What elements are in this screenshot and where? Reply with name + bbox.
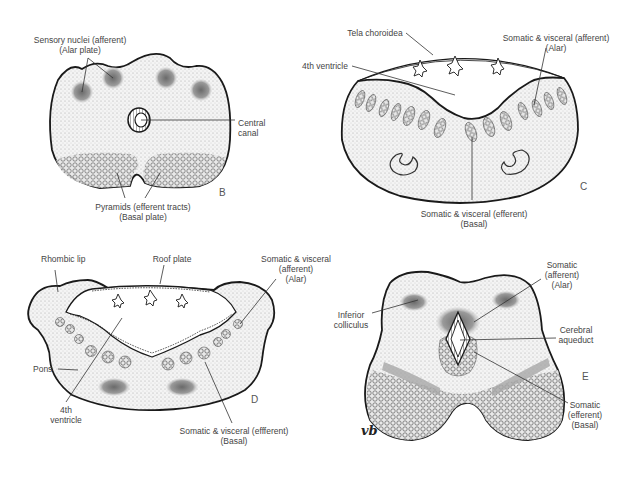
label-4th-ventricle-c: 4th ventricle xyxy=(299,61,351,71)
label-rhombic-lip: Rhombic lip xyxy=(41,254,85,264)
label-somatic-visceral-afferent-d: Somatic & visceral (afferent) (Alar) xyxy=(256,254,336,284)
panel-letter-d: D xyxy=(251,394,258,405)
panel-letter-e: E xyxy=(582,371,589,382)
panel-c-medulla-section xyxy=(342,33,578,203)
neural-tube-cross-sections-figure xyxy=(0,0,636,479)
label-roof-plate: Roof plate xyxy=(150,254,194,264)
sensory-nucleus xyxy=(190,79,212,101)
panel-e-midbrain-section xyxy=(365,272,568,440)
label-somatic-visceral-efferent-d: Somatic & visceral (effferent) (Basal) xyxy=(174,426,294,446)
label-inferior-colliculus: Inferior colliculus xyxy=(328,310,374,330)
artist-signature: vb xyxy=(361,423,378,438)
panel-c-outline xyxy=(342,78,578,204)
label-pyramids: Pyramids (efferent tracts) (Basal plate) xyxy=(88,202,198,222)
inferior-colliculus-right xyxy=(492,291,520,309)
label-pons: Pons xyxy=(33,364,52,374)
panel-letter-b: B xyxy=(219,187,226,198)
label-4th-ventricle-d: 4th ventricle xyxy=(46,405,86,425)
pontine-nucleus-left xyxy=(98,378,130,396)
label-somatic-visceral-efferent-c: Somatic & visceral (efferent) (Basal) xyxy=(416,209,532,229)
label-somatic-efferent-e: Somatic (efferent) (Basal) xyxy=(562,400,608,430)
panel-d-pons-section xyxy=(28,265,276,423)
label-somatic-visceral-afferent-c: Somatic & visceral (afferent) (Alar) xyxy=(498,33,614,53)
inferior-colliculus-left xyxy=(400,293,428,311)
pontine-nucleus-right xyxy=(166,378,198,396)
label-sensory-nuclei: Sensory nuclei (afferent) (Alar plate) xyxy=(28,35,132,55)
label-tela-choroidea: Tela choroidea xyxy=(340,28,410,38)
sensory-nucleus xyxy=(155,67,177,89)
label-somatic-afferent-e: Somatic (afferent) (Alar) xyxy=(539,260,585,290)
label-cerebral-aqueduct: Cerebral aqueduct xyxy=(553,325,599,345)
panel-letter-c: C xyxy=(580,181,587,192)
panel-b-spinal-section xyxy=(50,54,235,198)
label-central-canal: Central canal xyxy=(238,118,265,138)
